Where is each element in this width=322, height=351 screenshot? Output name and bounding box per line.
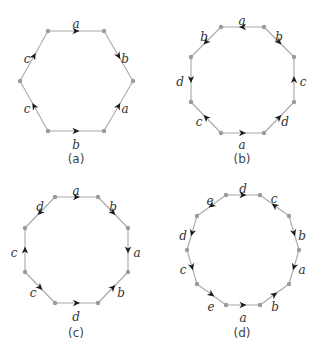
edge-label: c bbox=[300, 75, 307, 89]
vertex-dot bbox=[53, 195, 57, 199]
vertex-dot bbox=[23, 270, 27, 274]
polygon-b: abcdacdb(b) bbox=[176, 14, 306, 166]
polygon-c: ababdccd(c) bbox=[11, 184, 141, 340]
edge-label: b bbox=[275, 30, 283, 44]
caption-b: (b) bbox=[234, 152, 251, 166]
vertex-dot bbox=[18, 79, 22, 83]
vertex-dot bbox=[131, 79, 135, 83]
vertex-dot bbox=[195, 214, 199, 218]
arrow-icon bbox=[114, 51, 120, 59]
polygon-a: ababcc(a) bbox=[18, 17, 135, 166]
vertex-dot bbox=[262, 131, 266, 135]
edge-label: d bbox=[281, 115, 289, 129]
vertex-dot bbox=[224, 303, 228, 307]
edge-label: e bbox=[206, 194, 213, 208]
edge-label: b bbox=[271, 300, 279, 314]
vertex-dot bbox=[292, 100, 296, 104]
arrow-icon bbox=[114, 103, 120, 111]
edge-label: a bbox=[238, 138, 245, 152]
polygon-diagram: ababcc(a)abcdacdb(b)ababdccd(c)dcbabaecd… bbox=[0, 0, 322, 351]
edge-label: d bbox=[72, 310, 80, 324]
vertex-dot bbox=[224, 193, 228, 197]
edge-label: e bbox=[207, 300, 214, 314]
edge-label: a bbox=[239, 311, 246, 325]
vertex-dot bbox=[46, 129, 50, 133]
vertex-dot bbox=[219, 131, 223, 135]
vertex-dot bbox=[287, 214, 291, 218]
arrow-icon bbox=[207, 290, 215, 297]
caption-d: (d) bbox=[234, 326, 251, 340]
edge-label: b bbox=[72, 138, 80, 152]
vertex-dot bbox=[219, 25, 223, 29]
vertex-dot bbox=[258, 303, 262, 307]
vertex-dot bbox=[262, 25, 266, 29]
edge-label: a bbox=[72, 17, 79, 31]
vertex-dot bbox=[126, 226, 130, 230]
edge-label: c bbox=[11, 246, 18, 260]
arrow-icon bbox=[270, 292, 278, 299]
edge-label: b bbox=[121, 52, 129, 66]
vertex-dot bbox=[96, 301, 100, 305]
edge-label: b bbox=[200, 30, 208, 44]
vertex-dot bbox=[258, 193, 262, 197]
edge-label: a bbox=[298, 263, 305, 277]
vertex-dot bbox=[102, 29, 106, 33]
edge-label: c bbox=[196, 115, 203, 129]
vertex-dot bbox=[23, 226, 27, 230]
edge-label: b bbox=[117, 286, 125, 300]
edge-label: a bbox=[133, 246, 140, 260]
vertex-dot bbox=[297, 248, 301, 252]
vertex-dot bbox=[292, 55, 296, 59]
edge-label: a bbox=[72, 184, 79, 198]
vertex-dot bbox=[287, 282, 291, 286]
edge-label: d bbox=[179, 229, 187, 243]
caption-c: (c) bbox=[68, 326, 84, 340]
edge-label: b bbox=[298, 229, 306, 243]
edge-label: d bbox=[36, 200, 44, 214]
vertex-dot bbox=[185, 248, 189, 252]
vertex-dot bbox=[102, 129, 106, 133]
edge-label: a bbox=[238, 14, 245, 28]
vertex-dot bbox=[189, 100, 193, 104]
edge-label: a bbox=[121, 102, 128, 116]
vertex-dot bbox=[195, 282, 199, 286]
edge-label: c bbox=[271, 192, 278, 206]
edge-label: c bbox=[24, 52, 31, 66]
vertex-dot bbox=[96, 195, 100, 199]
vertex-dot bbox=[46, 29, 50, 33]
edge-label: c bbox=[24, 102, 31, 116]
vertex-dot bbox=[53, 301, 57, 305]
edge-label: d bbox=[176, 75, 184, 89]
edge-label: d bbox=[239, 182, 247, 196]
edge-label: c bbox=[30, 286, 37, 300]
caption-a: (a) bbox=[68, 152, 85, 166]
edge-label: c bbox=[180, 263, 187, 277]
polygon-d: dcbabaecde(d) bbox=[179, 182, 306, 340]
vertex-dot bbox=[126, 270, 130, 274]
vertex-dot bbox=[189, 55, 193, 59]
edge-label: b bbox=[109, 200, 117, 214]
